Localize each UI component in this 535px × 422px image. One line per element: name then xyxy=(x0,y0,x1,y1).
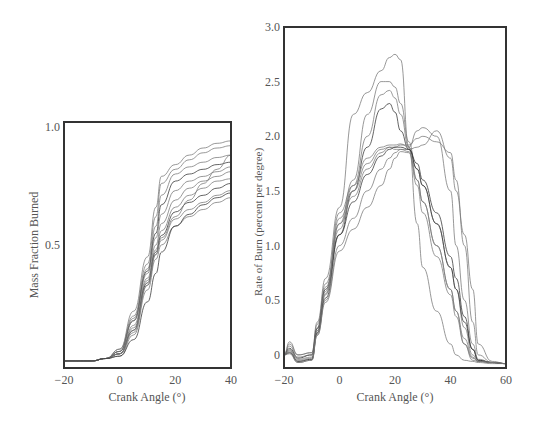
mass-fraction-y-tick-label: 1.0 xyxy=(45,120,60,134)
mass-fraction-series-line xyxy=(64,198,231,361)
rate-of-burn-y-tick-label: 2.5 xyxy=(265,75,280,89)
mass-fraction-x-tick-label: 40 xyxy=(225,373,237,387)
rate-of-burn-series-line xyxy=(284,82,506,364)
mass-fraction-series-line xyxy=(64,184,231,361)
rate-of-burn-x-tick-label: 40 xyxy=(445,373,457,387)
rate-of-burn-x-tick-label: −20 xyxy=(275,373,294,387)
rate-of-burn-series-line xyxy=(284,90,506,363)
mass-fraction-chart: 0.51.0 −2002040 Crank Angle (°) Mass Fra… xyxy=(27,120,237,404)
rate-of-burn-y-tick-label: 3.0 xyxy=(265,20,280,34)
mass-fraction-x-tick-label: 20 xyxy=(169,373,181,387)
rate-of-burn-y-tick-label: 0.5 xyxy=(265,293,280,307)
mass-fraction-y-ticks: 0.51.0 xyxy=(45,120,60,252)
rate-of-burn-y-tick-label: 1.5 xyxy=(265,184,280,198)
mass-fraction-series-line xyxy=(64,191,231,361)
rate-of-burn-series-line xyxy=(284,149,506,363)
rate-of-burn-x-tick-label: 20 xyxy=(389,373,401,387)
rate-of-burn-y-tick-label: 2.0 xyxy=(265,129,280,143)
rate-of-burn-chart: 00.51.01.52.02.53.0 −200204060 Crank Ang… xyxy=(252,20,512,404)
rate-of-burn-curves xyxy=(284,54,506,363)
rate-of-burn-x-label: Crank Angle (°) xyxy=(357,390,434,404)
rate-of-burn-y-tick-label: 1.0 xyxy=(265,239,280,253)
mass-fraction-series-line xyxy=(64,193,231,361)
mass-fraction-y-label: Mass Fraction Burned xyxy=(27,192,41,299)
rate-of-burn-series-line xyxy=(284,54,506,363)
mass-fraction-x-ticks: −2002040 xyxy=(55,373,237,387)
mass-fraction-curves xyxy=(64,141,231,361)
mass-fraction-series-line xyxy=(64,141,231,361)
rate-of-burn-y-label: Rate of Burn (percent per degree) xyxy=(252,148,265,296)
mass-fraction-x-tick-label: 0 xyxy=(117,373,123,387)
rate-of-burn-x-ticks: −200204060 xyxy=(275,373,512,387)
mass-fraction-series-line xyxy=(64,172,231,361)
mass-fraction-series-line xyxy=(64,155,231,361)
mass-fraction-series-line xyxy=(64,146,231,361)
mass-fraction-x-label: Crank Angle (°) xyxy=(109,390,186,404)
rate-of-burn-plot-frame xyxy=(284,27,506,368)
rate-of-burn-x-tick-label: 60 xyxy=(500,373,512,387)
mass-fraction-series-line xyxy=(64,162,231,361)
mass-fraction-y-tick-label: 0.5 xyxy=(45,238,60,252)
rate-of-burn-series-line xyxy=(284,128,506,364)
mass-fraction-series-line xyxy=(64,155,231,361)
rate-of-burn-x-tick-label: 0 xyxy=(337,373,343,387)
mass-fraction-x-tick-label: −20 xyxy=(55,373,74,387)
rate-of-burn-y-tick-label: 0 xyxy=(274,348,280,362)
rate-of-burn-series-line xyxy=(284,152,506,364)
mass-fraction-series-line xyxy=(64,179,231,361)
figure: 0.51.0 −2002040 Crank Angle (°) Mass Fra… xyxy=(0,0,535,422)
rate-of-burn-series-line xyxy=(284,136,506,363)
mass-fraction-plot-frame xyxy=(64,122,231,368)
rate-of-burn-y-ticks: 00.51.01.52.02.53.0 xyxy=(265,20,280,362)
